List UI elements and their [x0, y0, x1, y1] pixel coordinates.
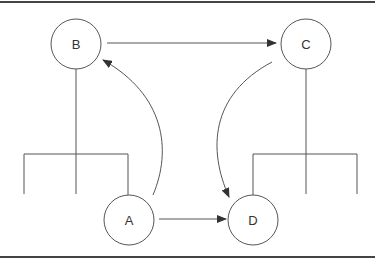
node-a-label: A [125, 213, 134, 228]
edge-c-to-d [217, 62, 272, 197]
node-d: D [228, 195, 278, 245]
tree-c [253, 69, 357, 195]
node-b-label: B [72, 37, 81, 52]
node-b: B [51, 19, 101, 69]
tree-b [24, 69, 128, 195]
node-a: A [104, 195, 154, 245]
node-d-label: D [248, 213, 257, 228]
node-c: C [281, 19, 331, 69]
edge-a-to-b [103, 60, 162, 195]
node-c-label: C [301, 37, 310, 52]
diagram-canvas: B C A D [0, 0, 375, 261]
